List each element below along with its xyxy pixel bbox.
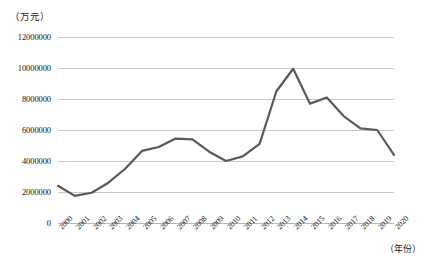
line-chart: （万元） 02000000400000060000008000000100000… [0,0,426,270]
series-polyline [58,69,394,196]
y-axis-tick-label: 6000000 [22,125,51,135]
y-axis-tick-labels: 0200000040000006000000800000010000000120… [0,0,55,270]
y-axis-tick-label: 2000000 [22,187,51,197]
y-axis-tick-label: 4000000 [22,156,51,166]
y-axis-tick-label: 8000000 [22,94,51,104]
y-axis-tick-label: 12000000 [18,32,51,42]
x-axis-tick-label: 2020 [393,214,410,231]
x-axis-caption: （年份） [385,242,421,255]
plot-area [58,37,394,223]
series-line [58,37,394,223]
x-axis-tick-labels: 2000200120022003200420052006200720082009… [58,223,394,270]
y-axis-tick-label: 10000000 [18,63,51,73]
y-axis-tick-label: 0 [47,218,51,228]
